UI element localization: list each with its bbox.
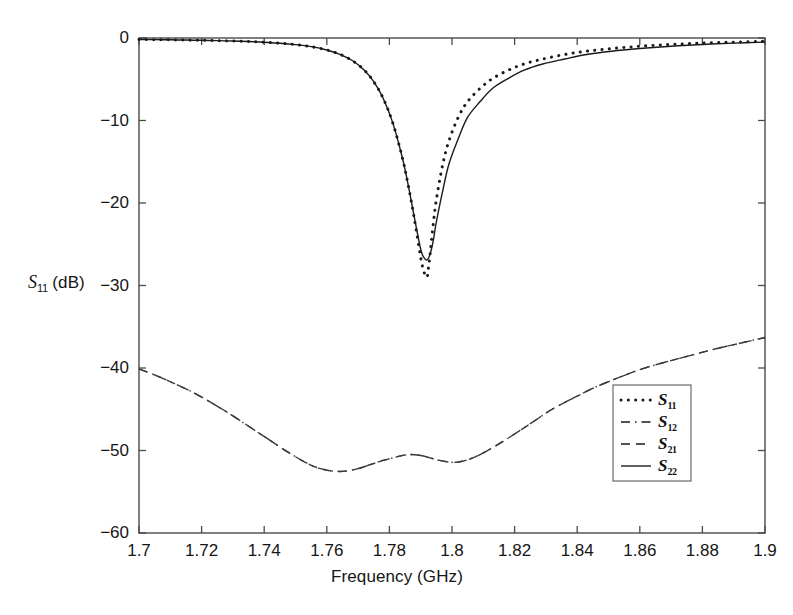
x-axis-tick-label: 1.7 (127, 541, 151, 561)
y-axis-tick-label: −10 (100, 111, 129, 131)
legend-label-subscript: 21 (667, 444, 676, 455)
legend-label-subscript: 22 (667, 466, 676, 477)
x-axis-tick-label: 1.74 (248, 541, 281, 561)
y-axis-tick-label: −30 (100, 276, 129, 296)
y-axis-label-unit: (dB) (48, 273, 85, 292)
x-axis-tick-label: 1.8 (440, 541, 464, 561)
y-axis-tick-label: −20 (100, 193, 129, 213)
x-axis-tick-label: 1.76 (310, 541, 343, 561)
y-axis-tick-label: −60 (100, 523, 129, 543)
y-axis-tick-label: 0 (120, 28, 129, 48)
y-axis-label-subscript: 11 (37, 282, 47, 294)
legend-label-subscript: 12 (667, 422, 676, 433)
x-axis-tick-label: 1.72 (185, 541, 218, 561)
legend-label-subscript: 11 (667, 400, 676, 411)
legend-label-s22: S22 (658, 456, 677, 477)
series-line-s11 (139, 39, 765, 277)
y-axis-label-symbol: S (28, 272, 37, 292)
x-axis-tick-label: 1.82 (498, 541, 531, 561)
x-axis-tick-label: 1.84 (561, 541, 594, 561)
chart-figure: S11 (dB) Frequency (GHz) 1.71.721.741.76… (0, 0, 793, 615)
legend-label-s12: S12 (658, 412, 677, 433)
x-axis-tick-label: 1.9 (753, 541, 777, 561)
series-line-s22 (139, 39, 765, 260)
x-axis-label: Frequency (GHz) (331, 567, 463, 587)
x-axis-tick-label: 1.86 (623, 541, 656, 561)
y-axis-tick-label: −50 (100, 441, 129, 461)
y-axis-label: S11 (dB) (28, 272, 85, 294)
x-axis-tick-label: 1.88 (686, 541, 719, 561)
y-axis-tick-label: −40 (100, 358, 129, 378)
legend-label-s21: S21 (658, 434, 677, 455)
x-axis-tick-label: 1.78 (373, 541, 406, 561)
legend-label-s11: S11 (658, 390, 676, 411)
